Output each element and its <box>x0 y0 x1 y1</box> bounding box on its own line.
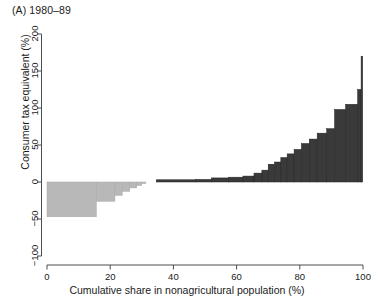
bar-positive-11 <box>243 176 254 182</box>
bar-positive-12 <box>254 173 262 182</box>
bar-negative-1 <box>96 182 115 201</box>
x-tick-label: 60 <box>217 271 257 282</box>
y-tick-label: −100 <box>29 239 40 273</box>
bar-positive-8 <box>196 179 212 182</box>
bars-layer <box>47 56 363 217</box>
bar-positive-10 <box>229 177 243 182</box>
bar-positive-25 <box>358 90 361 183</box>
y-tick-label: 200 <box>29 17 40 51</box>
bar-positive-22 <box>327 129 335 182</box>
chart-canvas <box>0 0 374 305</box>
x-tick-label: 40 <box>153 271 193 282</box>
bar-positive-7 <box>156 180 195 182</box>
bar-positive-21 <box>317 133 326 182</box>
y-tick-label: 0 <box>29 165 40 199</box>
y-tick-label: −50 <box>29 202 40 236</box>
bar-negative-3 <box>122 182 130 191</box>
x-axis-label: Cumulative share in nonagricultural popu… <box>0 284 374 296</box>
bar-positive-24 <box>346 104 358 182</box>
bar-negative-2 <box>115 182 122 195</box>
y-tick-label: 150 <box>29 54 40 88</box>
bar-positive-15 <box>275 162 281 182</box>
bar-positive-18 <box>294 149 301 182</box>
bar-positive-23 <box>335 109 346 182</box>
bar-positive-26 <box>361 56 363 182</box>
bar-negative-4 <box>130 182 137 188</box>
bar-negative-0 <box>47 182 96 217</box>
bar-positive-20 <box>309 139 317 182</box>
x-tick-label: 0 <box>27 271 67 282</box>
x-tick-label: 100 <box>343 271 374 282</box>
page-title: (A) 1980–89 <box>12 4 71 16</box>
bar-positive-14 <box>268 164 274 182</box>
bar-positive-17 <box>287 154 294 182</box>
bar-positive-13 <box>262 170 268 182</box>
bar-negative-6 <box>142 182 146 183</box>
bar-positive-16 <box>281 158 287 182</box>
x-tick-label: 80 <box>280 271 320 282</box>
bar-positive-9 <box>211 178 228 182</box>
bar-negative-5 <box>137 182 142 185</box>
y-tick-label: 50 <box>29 128 40 162</box>
figure-panel-a: (A) 1980–89 Consumer tax equivalent (%) … <box>0 0 374 305</box>
y-tick-label: 100 <box>29 91 40 125</box>
bar-positive-19 <box>301 144 309 182</box>
x-tick-label: 20 <box>90 271 130 282</box>
